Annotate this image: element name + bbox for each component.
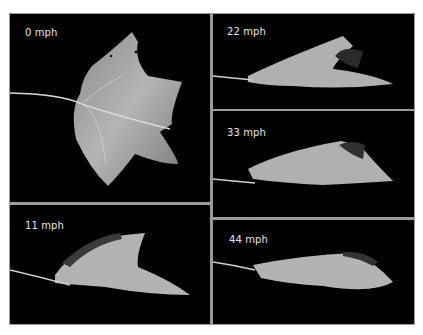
figure-frame: 0 mph 11 mph 22 mph xyxy=(9,13,415,325)
leaf-11mph-image xyxy=(10,205,210,324)
leaf-44mph-image xyxy=(213,220,414,324)
leaf-blade xyxy=(74,32,182,186)
panel-0mph: 0 mph xyxy=(10,14,210,202)
panel-33mph: 33 mph xyxy=(213,111,414,217)
panel-44mph: 44 mph xyxy=(213,220,414,324)
panel-22mph: 22 mph xyxy=(213,14,414,109)
leaf-22mph-image xyxy=(213,14,414,109)
panel-11mph: 11 mph xyxy=(10,205,210,324)
leaf-33mph-image xyxy=(213,111,414,217)
flat-leaf-image xyxy=(10,14,210,202)
